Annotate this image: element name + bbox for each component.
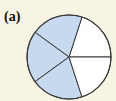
fraction-circle	[0, 0, 116, 101]
